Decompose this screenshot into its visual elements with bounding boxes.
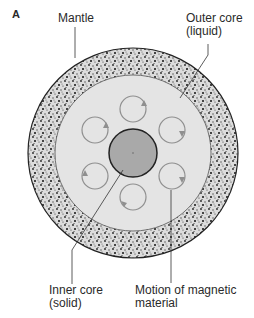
inner-core-sublabel: (solid)	[49, 297, 82, 310]
mantle-label: Mantle	[58, 12, 94, 25]
earth-core-diagram	[0, 0, 254, 318]
outer-core-sublabel: (liquid)	[186, 25, 222, 38]
motion-sublabel: material	[135, 297, 178, 310]
